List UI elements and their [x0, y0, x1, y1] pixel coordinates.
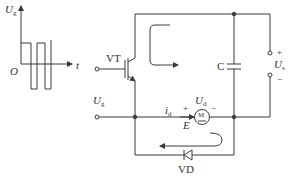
us-minus-terminal [268, 73, 272, 77]
us-plus-terminal [268, 51, 272, 55]
gate-input-label: Ug [93, 95, 104, 108]
motor-plus-label: + [183, 104, 188, 113]
circuit-diagram [0, 0, 289, 178]
supply-voltage-label: Us [274, 59, 285, 72]
motor-symbol-label: M [198, 112, 204, 119]
base-terminal [95, 67, 99, 71]
back-emf-label: E [183, 120, 190, 131]
junction-node-top [232, 12, 236, 16]
waveform-y-label: Ug [5, 4, 16, 17]
current-path-arrow-freewheel [160, 133, 222, 146]
ug-terminal [95, 115, 99, 119]
waveform-x-label: t [76, 60, 79, 71]
supply-plus-label: + [277, 48, 282, 57]
capacitor-label: C [217, 61, 224, 72]
waveform-plot [21, 6, 72, 89]
transistor-label: VT [106, 53, 121, 64]
motor-current-label: id [165, 105, 172, 118]
motor-voltage-label: Ud [195, 95, 206, 108]
waveform-origin-label: O [10, 66, 18, 77]
motor-minus-label: − [211, 104, 216, 113]
diode-vd [184, 150, 192, 160]
junction-node-left [133, 115, 137, 119]
diode-label: VD [178, 164, 194, 175]
supply-minus-label: − [277, 75, 282, 84]
current-path-arrow-on [150, 25, 178, 65]
